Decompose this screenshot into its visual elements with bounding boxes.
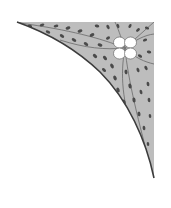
floral-corner-ornament-icon [0, 0, 171, 208]
ornament-canvas: Decorative ornamental corner spandrel wi… [0, 0, 171, 208]
